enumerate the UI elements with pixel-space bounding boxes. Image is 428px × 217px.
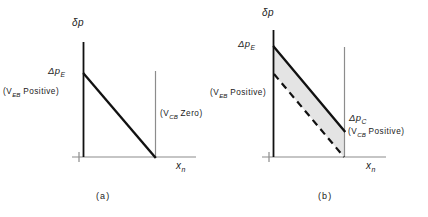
x-axis-label: xn: [176, 161, 185, 173]
reference-profile-dashed-line: [274, 74, 344, 157]
amplitude-collector-sub: C: [361, 118, 366, 125]
x-axis-sub: n: [371, 166, 375, 173]
bias-label-emitter: (VEB Positive): [3, 88, 59, 98]
bias-collector-prefix: (V: [160, 109, 169, 118]
panel-b-caption: (b): [318, 191, 332, 201]
bias-collector-sub: CB: [169, 113, 178, 120]
panel-b-plot: [214, 0, 428, 217]
bias-label-collector: (VCB Positive): [348, 128, 404, 138]
amplitude-label-emitter: ΔpE: [48, 66, 65, 79]
shaded-region: [274, 47, 344, 157]
bias-collector-sub: CB: [357, 131, 366, 138]
x-axis-sub: n: [181, 166, 185, 173]
panel-a-caption: (a): [96, 191, 110, 201]
amplitude-sub: E: [60, 71, 65, 78]
amplitude-label-emitter: ΔpE: [238, 39, 255, 52]
bias-label-collector: (VCB Zero): [160, 110, 203, 120]
bias-collector-prefix: (V: [348, 127, 357, 136]
panel-a: δp ΔpE (VEB Positive) (VCB Zero) xn (a): [0, 0, 214, 217]
bias-emitter-prefix: (V: [210, 88, 219, 97]
y-axis-label: δp: [262, 8, 274, 18]
x-axis-label: xn: [366, 161, 375, 173]
bias-collector-suffix: Positive): [366, 127, 405, 136]
bias-emitter-suffix: Positive): [227, 88, 266, 97]
y-axis-label: δp: [72, 18, 84, 28]
carrier-profile-line: [274, 47, 345, 131]
bias-label-emitter: (VEB Positive): [210, 89, 266, 99]
figure-container: δp ΔpE (VEB Positive) (VCB Zero) xn (a): [0, 0, 428, 217]
amplitude-collector-base: Δp: [349, 112, 361, 123]
amplitude-label-collector: ΔpC: [349, 113, 366, 126]
carrier-profile-line: [84, 74, 155, 157]
amplitude-emitter-sub: E: [250, 44, 255, 51]
bias-emitter-suffix: Positive): [20, 87, 59, 96]
bias-collector-suffix: Zero): [178, 109, 203, 118]
panel-b: δp ΔpE (VEB Positive) ΔpC (VCB Positive)…: [214, 0, 428, 217]
amplitude-emitter-base: Δp: [238, 38, 250, 49]
bias-emitter-prefix: (V: [3, 87, 12, 96]
amplitude-base: Δp: [48, 65, 60, 76]
